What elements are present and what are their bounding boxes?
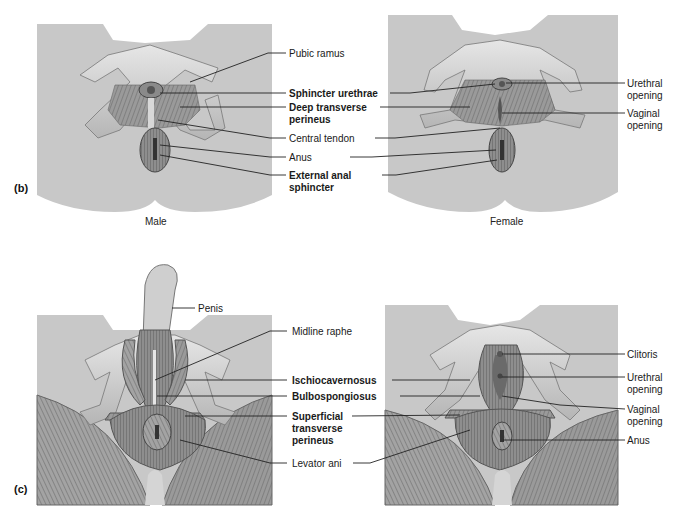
label-midline-raphe: Midline raphe [292, 326, 352, 337]
label-sphincter-urethrae: Sphincter urethrae [289, 88, 378, 99]
label-superficial-transverse-perineus-3: perineus [292, 435, 334, 446]
label-anus-b: Anus [289, 152, 312, 163]
label-external-anal-sphincter-2: sphincter [289, 182, 334, 193]
label-vaginal-opening-c-2: opening [627, 416, 663, 427]
male-caption: Male [145, 216, 167, 227]
panel-c-tag: (c) [14, 483, 27, 495]
panel-b-tag: (b) [14, 182, 28, 194]
label-levator-ani: Levator ani [292, 458, 341, 469]
label-urethral-opening-b-1: Urethral [627, 78, 663, 89]
label-urethral-opening-c-2: opening [627, 384, 663, 395]
label-superficial-transverse-perineus-1: Superficial [292, 411, 343, 422]
label-vaginal-opening-b-1: Vaginal [627, 108, 660, 119]
label-vaginal-opening-b-2: opening [627, 120, 663, 131]
label-superficial-transverse-perineus-2: transverse [292, 423, 343, 434]
label-penis: Penis [198, 303, 223, 314]
label-clitoris: Clitoris [627, 349, 658, 360]
label-deep-transverse-perineus-1: Deep transverse [289, 102, 367, 113]
label-deep-transverse-perineus-2: perineus [289, 114, 331, 125]
label-external-anal-sphincter-1: External anal [289, 170, 351, 181]
label-urethral-opening-c-1: Urethral [627, 372, 663, 383]
label-urethral-opening-b-2: opening [627, 90, 663, 101]
label-ischiocavernosus: Ischiocavernosus [292, 375, 376, 386]
label-vaginal-opening-c-1: Vaginal [627, 404, 660, 415]
female-caption: Female [490, 216, 523, 227]
label-central-tendon: Central tendon [289, 133, 355, 144]
label-bulbospongiosus: Bulbospongiosus [292, 391, 376, 402]
label-pubic-ramus: Pubic ramus [289, 48, 345, 59]
label-anus-c: Anus [627, 435, 650, 446]
